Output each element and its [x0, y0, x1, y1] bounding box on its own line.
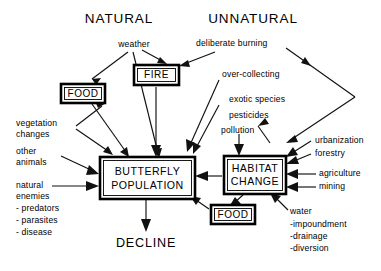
butterfly-decline-diagram: FOOD FIRE BUTTERFLY POPULATION HABITAT C…: [0, 0, 381, 271]
edge-butterfly-to-decline: [141, 199, 151, 232]
label-pollution: pollution: [221, 125, 254, 135]
label-agriculture: agriculture: [319, 168, 361, 178]
edge-deliberate-burning-to-habitat: [286, 48, 355, 143]
edge-urbanization-to-habitat: [286, 141, 311, 157]
label-deliberate-burning: deliberate burning: [196, 38, 268, 48]
label-urbanization: urbanization: [315, 135, 364, 145]
edge-pollution-to-habitat: [234, 134, 244, 156]
label-vegetation-line1: vegetation: [16, 118, 57, 128]
edge-vegetation-to-butterfly: [76, 129, 113, 155]
edge-deliberate-burning-to-fire: [179, 52, 215, 67]
edge-mining-to-habitat: [286, 182, 316, 192]
edge-habitat-to-butterfly: [195, 171, 222, 181]
box-food-top-label: FOOD: [68, 88, 99, 99]
box-layer: FOOD FIRE BUTTERFLY POPULATION HABITAT C…: [61, 65, 286, 224]
box-butterfly-line2: POPULATION: [111, 179, 184, 191]
label-impoundment: -impoundment: [290, 219, 347, 229]
edge-water-to-habitat: [270, 193, 288, 210]
edge-over-collecting-to-butterfly: [186, 80, 219, 152]
diagram-canvas: FOOD FIRE BUTTERFLY POPULATION HABITAT C…: [0, 0, 381, 271]
label-drainage: -drainage: [290, 231, 328, 241]
edge-pesticides-to-butterfly: [258, 118, 270, 143]
label-forestry: forestry: [315, 148, 345, 158]
box-food-bottom: FOOD: [211, 205, 255, 224]
edge-food-top-to-butterfly: [92, 104, 129, 157]
label-decline: DECLINE: [116, 236, 176, 250]
edge-vegetation-to-food-top: [76, 101, 106, 126]
edge-fire-to-butterfly: [151, 87, 161, 157]
box-habitat-line1: HABITAT: [232, 162, 279, 174]
text-layer: NATURAL UNNATURAL weather vegetation cha…: [16, 11, 364, 254]
heading-natural: NATURAL: [85, 11, 153, 26]
label-other-line2: animals: [16, 157, 47, 167]
edge-layer: [52, 48, 355, 232]
edge-natural-enemies-to-butterfly: [52, 181, 99, 191]
label-mining: mining: [319, 181, 345, 191]
label-pesticides: pesticides: [229, 110, 269, 120]
box-food-bottom-label: FOOD: [218, 209, 249, 220]
label-over-collecting: over-collecting: [222, 69, 280, 79]
heading-unnatural: UNNATURAL: [208, 11, 298, 26]
box-fire-label: FIRE: [144, 69, 169, 80]
edge-agriculture-to-habitat: [286, 169, 316, 179]
edge-weather-to-food-top: [92, 52, 128, 85]
label-natural-enemies-line2: enemies: [16, 191, 50, 201]
box-habitat-change: HABITAT CHANGE: [224, 156, 286, 194]
label-parasites: - parasites: [16, 215, 58, 225]
label-other-line1: other: [16, 146, 36, 156]
box-food-top: FOOD: [61, 84, 105, 103]
box-habitat-line2: CHANGE: [231, 175, 279, 187]
label-exotic-species: exotic species: [229, 94, 285, 104]
box-butterfly-line1: BUTTERFLY: [115, 165, 181, 177]
label-water: water: [289, 206, 312, 216]
label-predators: - predators: [16, 203, 59, 213]
box-fire: FIRE: [134, 65, 179, 85]
label-disease: - disease: [16, 227, 52, 237]
label-weather: weather: [117, 39, 150, 49]
edge-weather-to-fire: [142, 50, 167, 64]
edge-other-animals-to-butterfly: [61, 156, 99, 175]
label-diversion: -diversion: [290, 243, 329, 253]
label-vegetation-line2: changes: [16, 129, 50, 139]
label-natural-enemies-line1: natural: [16, 180, 43, 190]
box-butterfly-population: BUTTERFLY POPULATION: [100, 157, 195, 199]
